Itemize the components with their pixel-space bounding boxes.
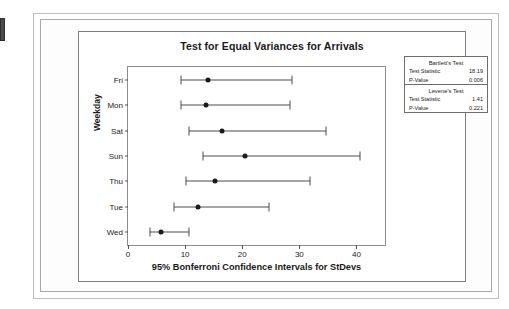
data-point-marker [219, 128, 224, 133]
data-point-marker [242, 154, 247, 159]
y-tick-mark [125, 130, 128, 131]
confidence-interval-line [186, 181, 310, 182]
y-tick-mark [125, 181, 128, 182]
y-tick-label: Tue [110, 202, 124, 211]
confidence-interval-cap [189, 126, 190, 135]
document-frame: Test for Equal Variances for Arrivals We… [33, 13, 499, 299]
y-tick-label: Fri [114, 75, 123, 84]
bartlett-pvalue-value: 0.006 [469, 77, 483, 83]
y-tick-mark [125, 79, 128, 80]
x-tick-label: 30 [295, 250, 304, 259]
x-tick-mark [242, 245, 243, 249]
y-axis-label: Weekday [92, 94, 102, 131]
y-tick-label: Wed [107, 228, 123, 237]
confidence-interval-line [150, 232, 188, 233]
levene-pvalue-label: P-Value [409, 105, 429, 111]
y-tick-mark [125, 232, 128, 233]
bartlett-test-section: Bartlett's Test Test Statistic 18.19 P-V… [405, 57, 487, 84]
confidence-interval-cap [269, 202, 270, 211]
confidence-interval-cap [180, 75, 181, 84]
levene-test-section: Levene's Test Test Statistic 1.41 P-Valu… [405, 84, 487, 112]
x-tick-mark [299, 245, 300, 249]
plot-inner: Weekday 95% Bonferroni Confidence Interv… [128, 67, 385, 245]
chart-title: Test for Equal Variances for Arrivals [79, 40, 465, 52]
bartlett-pvalue-row: P-Value 0.006 [405, 76, 487, 85]
levene-statistic-row: Test Statistic 1.41 [405, 95, 487, 104]
stats-box: Bartlett's Test Test Statistic 18.19 P-V… [404, 56, 488, 113]
confidence-interval-line [203, 156, 360, 157]
x-tick-label: 10 [181, 250, 190, 259]
bartlett-statistic-row: Test Statistic 18.19 [405, 67, 487, 76]
y-tick-label: Sat [111, 126, 123, 135]
data-point-marker [195, 204, 200, 209]
bartlett-statistic-label: Test Statistic [409, 68, 440, 74]
confidence-interval-line [174, 206, 269, 207]
x-tick-mark [356, 245, 357, 249]
levene-test-title: Levene's Test [405, 85, 487, 95]
confidence-interval-cap [188, 228, 189, 237]
x-tick-label: 20 [238, 250, 247, 259]
x-tick-mark [185, 245, 186, 249]
y-tick-label: Mon [107, 101, 123, 110]
confidence-interval-cap [292, 75, 293, 84]
y-tick-label: Thu [109, 177, 123, 186]
document-frame-inner: Test for Equal Variances for Arrivals We… [40, 19, 492, 292]
x-tick-label: 0 [126, 250, 130, 259]
page-edge-mark [0, 18, 5, 41]
levene-statistic-value: 1.41 [472, 96, 483, 102]
confidence-interval-cap [325, 126, 326, 135]
data-point-marker [159, 230, 164, 235]
x-axis-label: 95% Bonferroni Confidence Intervals for … [128, 262, 385, 272]
confidence-interval-cap [359, 152, 360, 161]
confidence-interval-line [181, 79, 293, 80]
confidence-interval-cap [150, 228, 151, 237]
bartlett-pvalue-label: P-Value [409, 77, 429, 83]
confidence-interval-cap [309, 177, 310, 186]
plot-area: Weekday 95% Bonferroni Confidence Interv… [127, 66, 386, 246]
confidence-interval-line [181, 105, 291, 106]
data-point-marker [205, 77, 210, 82]
levene-pvalue-row: P-Value 0.221 [405, 104, 487, 113]
data-point-marker [203, 103, 208, 108]
confidence-interval-cap [202, 152, 203, 161]
x-tick-mark [128, 245, 129, 249]
bartlett-test-title: Bartlett's Test [405, 57, 487, 67]
levene-statistic-label: Test Statistic [409, 96, 440, 102]
bartlett-statistic-value: 18.19 [469, 68, 483, 74]
levene-pvalue-value: 0.221 [469, 105, 483, 111]
y-tick-mark [125, 105, 128, 106]
y-tick-mark [125, 156, 128, 157]
confidence-interval-cap [290, 101, 291, 110]
confidence-interval-line [189, 130, 325, 131]
confidence-interval-cap [173, 202, 174, 211]
confidence-interval-cap [180, 101, 181, 110]
data-point-marker [213, 179, 218, 184]
confidence-interval-cap [185, 177, 186, 186]
x-tick-label: 40 [352, 250, 361, 259]
y-tick-label: Sun [109, 152, 123, 161]
y-tick-mark [125, 206, 128, 207]
graph-panel: Test for Equal Variances for Arrivals We… [78, 31, 466, 282]
